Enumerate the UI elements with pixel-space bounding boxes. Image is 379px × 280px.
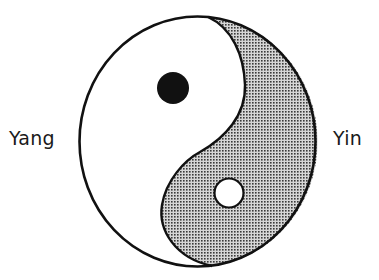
yang-black-dot bbox=[157, 72, 189, 104]
yin-yang-symbol bbox=[0, 0, 379, 280]
yin-white-dot bbox=[215, 179, 244, 208]
